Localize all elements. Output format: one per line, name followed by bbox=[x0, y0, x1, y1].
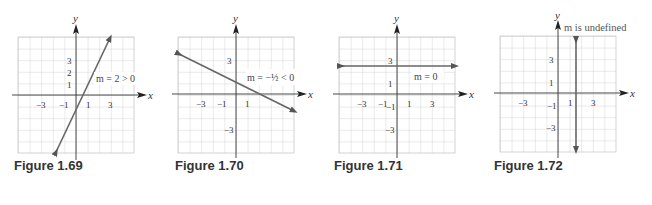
graph-positive-slope: x y −3−1 13 321 m = 2 > 0 bbox=[0, 0, 163, 160]
slope-label: m = −½ < 0 bbox=[247, 72, 294, 83]
svg-text:y: y bbox=[393, 12, 399, 24]
svg-text:3: 3 bbox=[227, 56, 232, 66]
slope-label: m = 0 bbox=[414, 71, 437, 82]
svg-text:3: 3 bbox=[549, 55, 554, 65]
svg-text:y: y bbox=[72, 12, 78, 24]
figure-1-70: x y −3−1 1 3−3 m = −½ < 0 Figure 1.70 bbox=[161, 0, 324, 205]
svg-text:−1: −1 bbox=[217, 99, 227, 109]
figure-caption: Figure 1.72 bbox=[494, 158, 563, 173]
svg-text:1: 1 bbox=[549, 78, 554, 88]
figure-caption: Figure 1.70 bbox=[175, 158, 244, 173]
svg-text:−3: −3 bbox=[518, 98, 528, 108]
svg-text:x: x bbox=[468, 88, 474, 100]
svg-text:3: 3 bbox=[108, 100, 113, 110]
figure-caption: Figure 1.71 bbox=[334, 158, 403, 173]
svg-text:−3: −3 bbox=[546, 123, 556, 133]
svg-text:3: 3 bbox=[388, 56, 393, 66]
svg-text:x: x bbox=[629, 87, 635, 99]
slope-label: m = 2 > 0 bbox=[96, 73, 135, 84]
slope-label: m is undefined bbox=[564, 22, 627, 33]
graph-zero-slope: x y −3−1 13 31 −1−3 m = 0 bbox=[322, 0, 485, 160]
figure-1-69: x y −3−1 13 321 m = 2 > 0 Figure 1.69 bbox=[0, 0, 163, 205]
svg-text:−3: −3 bbox=[385, 125, 395, 135]
svg-text:−3: −3 bbox=[36, 100, 46, 110]
svg-text:y: y bbox=[232, 12, 238, 24]
svg-text:3: 3 bbox=[67, 56, 72, 66]
svg-text:3: 3 bbox=[591, 98, 596, 108]
graph-negative-slope: x y −3−1 1 3−3 m = −½ < 0 bbox=[161, 0, 324, 160]
svg-text:x: x bbox=[147, 89, 153, 101]
svg-text:−3: −3 bbox=[196, 99, 206, 109]
svg-text:3: 3 bbox=[430, 99, 435, 109]
svg-text:1: 1 bbox=[568, 98, 573, 108]
svg-text:x: x bbox=[307, 88, 313, 100]
svg-text:−3: −3 bbox=[357, 99, 367, 109]
svg-text:−1: −1 bbox=[547, 101, 557, 111]
graph-undefined-slope: x y −3 13 31 −1−3 m is undefined bbox=[483, 0, 652, 160]
figure-1-71: x y −3−1 13 31 −1−3 m = 0 Figure 1.71 bbox=[322, 0, 485, 205]
svg-text:−1: −1 bbox=[59, 100, 69, 110]
svg-text:1: 1 bbox=[388, 79, 393, 89]
svg-text:y: y bbox=[554, 9, 560, 21]
svg-text:1: 1 bbox=[67, 80, 72, 90]
svg-text:−1: −1 bbox=[386, 102, 396, 112]
svg-text:1: 1 bbox=[245, 99, 250, 109]
svg-text:1: 1 bbox=[407, 99, 412, 109]
figure-caption: Figure 1.69 bbox=[14, 158, 83, 173]
svg-text:1: 1 bbox=[86, 100, 91, 110]
svg-text:2: 2 bbox=[67, 68, 72, 78]
figure-1-72: x y −3 13 31 −1−3 m is undefined Figure … bbox=[483, 0, 646, 205]
svg-text:−3: −3 bbox=[224, 125, 234, 135]
